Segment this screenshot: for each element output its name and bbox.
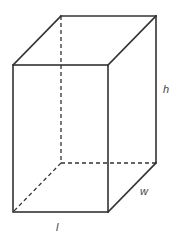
bottom-right-edge	[108, 163, 156, 212]
width-label: w	[140, 185, 149, 197]
hidden-edges	[13, 16, 156, 212]
top-left-edge	[13, 16, 61, 65]
visible-edges	[13, 16, 156, 212]
hidden-left-bottom-edge	[13, 163, 61, 212]
length-label: l	[56, 221, 59, 233]
prism-svg: h w l	[0, 0, 175, 239]
height-label: h	[163, 83, 169, 95]
rectangular-prism-diagram: h w l	[0, 0, 175, 239]
top-right-edge	[108, 16, 156, 65]
